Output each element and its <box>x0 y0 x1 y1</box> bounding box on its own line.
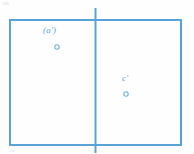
point-label-a-prime: (a') <box>43 26 56 35</box>
scan-artifact-top-left <box>3 2 9 5</box>
scan-artifact-bottom-left <box>10 150 15 152</box>
point-label-c-prime: c' <box>122 74 128 83</box>
diagram-canvas: (a') c' <box>0 0 194 154</box>
point-marker-c-prime <box>124 92 128 96</box>
geometry-figure <box>0 0 194 154</box>
point-marker-a-prime <box>55 45 59 49</box>
